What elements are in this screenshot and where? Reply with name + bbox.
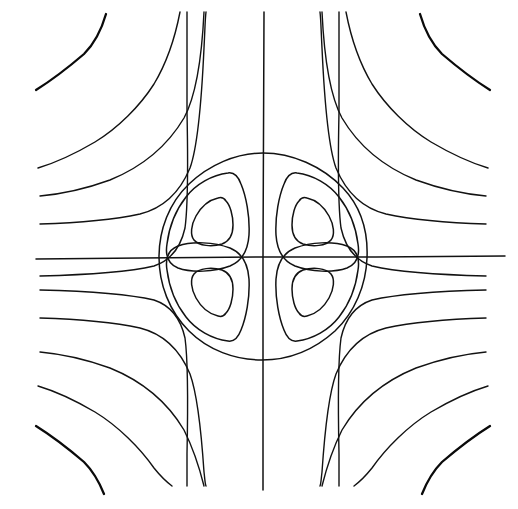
contour-canvas	[0, 0, 518, 509]
contour-figure	[0, 0, 518, 509]
figure-background	[0, 0, 518, 509]
